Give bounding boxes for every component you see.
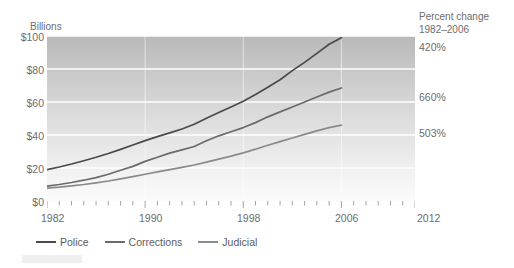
percent-change-corrections: 660% — [419, 91, 446, 103]
x-tick-label: 2012 — [417, 212, 440, 224]
legend-swatch-police — [36, 241, 56, 243]
legend-swatch-judicial — [198, 241, 218, 243]
plot-area — [47, 36, 415, 201]
y-axis-tick-labels: $100 $80 $60 $40 $20 $0 — [0, 0, 44, 268]
legend-item-corrections: Corrections — [105, 236, 183, 248]
percent-change-header-line2: 1982–2006 — [419, 23, 489, 36]
footer-bar — [22, 255, 82, 263]
y-tick-label: $60 — [26, 98, 44, 109]
legend-label-judicial: Judicial — [222, 236, 257, 248]
x-axis — [47, 201, 415, 211]
legend-item-police: Police — [36, 236, 89, 248]
x-tick-label: 2006 — [335, 212, 358, 224]
legend-label-police: Police — [60, 236, 89, 248]
percent-change-header-line1: Percent change — [419, 10, 489, 23]
y-tick-label: $80 — [26, 65, 44, 76]
series-canvas — [47, 36, 415, 201]
legend-label-corrections: Corrections — [129, 236, 183, 248]
y-tick-label: $0 — [32, 197, 44, 208]
percent-change-header: Percent change 1982–2006 — [419, 10, 489, 36]
chart-figure: Billions $100 $80 $60 $40 $20 $0 1982 19… — [0, 0, 514, 268]
y-tick-label: $40 — [26, 131, 44, 142]
x-tick-label: 1998 — [237, 212, 260, 224]
y-tick-label: $20 — [26, 164, 44, 175]
percent-change-police: 420% — [419, 41, 446, 53]
legend-swatch-corrections — [105, 241, 125, 243]
y-tick-label: $100 — [21, 32, 44, 43]
chart-legend: Police Corrections Judicial — [36, 236, 267, 248]
legend-item-judicial: Judicial — [198, 236, 257, 248]
x-tick-label: 1982 — [41, 212, 64, 224]
series-line-police — [47, 38, 341, 170]
x-tick-label: 1990 — [139, 212, 162, 224]
percent-change-judicial: 503% — [419, 127, 446, 139]
